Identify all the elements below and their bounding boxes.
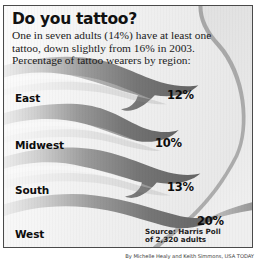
page-title: Do you tattoo? — [12, 10, 137, 28]
source-note: Source: Harris Poll of 2,320 adults — [145, 228, 221, 245]
infographic-usatoday-snapshot: Do you tattoo? One in seven adults (14%)… — [0, 0, 258, 265]
region-label-south: South — [15, 184, 49, 196]
value-label-midwest: 10% — [155, 136, 182, 150]
value-label-south: 13% — [167, 180, 194, 194]
graphic-frame: Do you tattoo? One in seven adults (14%)… — [3, 5, 253, 248]
region-label-east: East — [15, 92, 40, 104]
deck-line-1: One in seven adults (14%) have at least … — [12, 29, 202, 42]
byline-credit: By Michelle Healy and Keith Simmons, USA… — [0, 253, 254, 259]
value-label-west: 20% — [197, 214, 224, 228]
deck-line-3: Percentage of tattoo wearers by region: — [12, 54, 202, 67]
value-label-east: 12% — [167, 88, 194, 102]
source-line-2: of 2,320 adults — [145, 236, 221, 244]
deck-line-2: tattoo, down slightly from 16% in 2003. — [12, 42, 202, 55]
region-label-west: West — [15, 228, 44, 240]
text-layer: Do you tattoo? One in seven adults (14%)… — [4, 6, 252, 247]
region-label-midwest: Midwest — [15, 139, 64, 151]
deck-text: One in seven adults (14%) have at least … — [12, 29, 202, 67]
